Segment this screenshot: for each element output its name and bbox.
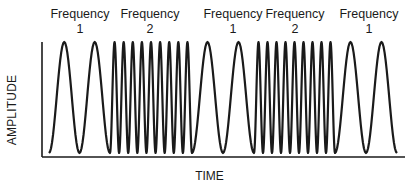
segment-label-word: Frequency: [339, 7, 398, 21]
segment-label-word: Frequency: [120, 7, 179, 21]
x-axis-label: TIME: [0, 169, 419, 183]
segment-label-word: Frequency: [203, 7, 262, 21]
segment-label-word: Frequency: [265, 7, 324, 21]
y-axis-label: AMPLITUDE: [2, 60, 22, 160]
segment-label-4: Frequency2: [255, 7, 335, 37]
waveform-curve: [49, 42, 397, 153]
segment-label-5: Frequency1: [329, 7, 409, 37]
segment-label-number: 2: [110, 22, 190, 37]
segment-label-number: 2: [255, 22, 335, 37]
segment-label-word: Frequency: [50, 7, 109, 21]
segment-label-number: 1: [40, 22, 120, 37]
segment-label-1: Frequency1: [40, 7, 120, 37]
y-axis-label-text: AMPLITUDE: [5, 75, 19, 145]
segment-label-2: Frequency2: [110, 7, 190, 37]
segment-label-number: 1: [329, 22, 409, 37]
